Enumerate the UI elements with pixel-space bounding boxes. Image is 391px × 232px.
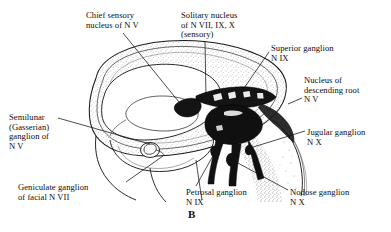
- annotation-label-solitary-nucleus-n-vii-ix-x: Solitary nucleusof N VII, IX, X(sensory): [181, 11, 237, 40]
- annotation-line: (sensory): [181, 30, 237, 40]
- annotation-line: nucleus of N V: [86, 21, 139, 31]
- annotation-label-jugular-ganglion-n-x: Jugular ganglionN X: [307, 128, 365, 147]
- annotation-label-nodose-ganglion-n-x: Nodose ganglionN X: [290, 188, 349, 207]
- annotation-line: of facial N VII: [18, 193, 88, 203]
- annotation-line: N V: [9, 142, 49, 152]
- annotation-label-geniculate-ganglion-facial-n-vii: Geniculate ganglionof facial N VII: [18, 183, 88, 202]
- annotation-line: N IX: [271, 54, 334, 64]
- annotation-label-nucleus-of-descending-root-n-v: Nucleus ofdescending rootN V: [304, 76, 359, 105]
- annotation-line: N X: [290, 198, 349, 208]
- annotation-line: N IX: [186, 198, 247, 208]
- annotation-line: N X: [307, 138, 365, 148]
- annotation-line: N V: [304, 95, 359, 105]
- annotation-label-semilunar-gasserian-ganglion-n-v: Semilunar(Gasserian)ganglion ofN V: [9, 113, 49, 151]
- annotation-label-superior-ganglion-n-ix: Superior ganglionN IX: [271, 44, 334, 63]
- annotation-label-chief-sensory-nucleus-n-v: Chief sensorynucleus of N V: [86, 11, 139, 30]
- figure-caption-letter: B: [188, 208, 195, 220]
- annotation-label-petrosal-ganglion-n-ix: Petrosal ganglionN IX: [186, 188, 247, 207]
